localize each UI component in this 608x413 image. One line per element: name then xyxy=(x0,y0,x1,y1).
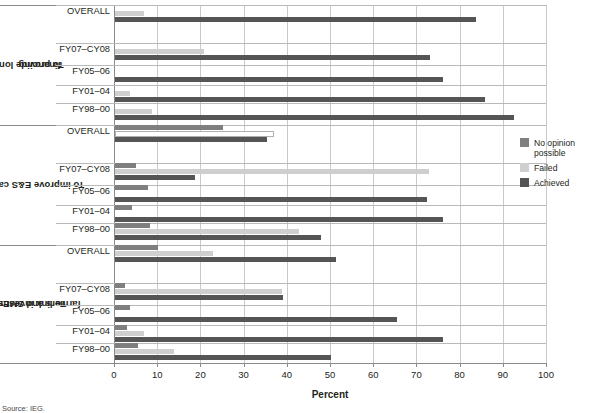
grouped-bar-chart: To provide long-termfinancing To improve… xyxy=(0,0,608,413)
gridline-90 xyxy=(503,5,504,363)
row-label-2-3: FY01–04 xyxy=(56,326,114,337)
legend-label: Failed xyxy=(534,163,608,173)
bar-no-opinion-possible-1-2 xyxy=(115,185,148,190)
x-tick-90 xyxy=(503,363,504,367)
row-separator xyxy=(56,65,546,66)
row-separator xyxy=(56,325,546,326)
legend-item-2: Achieved xyxy=(520,178,608,188)
row-separator xyxy=(56,103,546,104)
bar-achieved-2-2 xyxy=(115,317,397,322)
legend-swatch-icon xyxy=(520,138,529,147)
row-separator xyxy=(56,5,546,6)
bar-failed-0-0 xyxy=(115,11,144,16)
row-separator xyxy=(56,43,546,44)
bar-failed-0-1 xyxy=(115,49,204,54)
bar-achieved-0-3 xyxy=(115,97,485,102)
row-label-2-2: FY05–06 xyxy=(56,306,114,317)
x-tick-30 xyxy=(244,363,245,367)
legend: No opinion possibleFailedAchieved xyxy=(520,138,608,193)
bar-achieved-2-4 xyxy=(115,355,331,360)
bar-failed-0-3 xyxy=(115,91,130,96)
x-tick-label-90: 90 xyxy=(483,369,523,380)
x-tick-10 xyxy=(157,363,158,367)
x-tick-label-0: 0 xyxy=(94,369,134,380)
row-separator xyxy=(56,283,546,284)
group-title-es-capacity: To improve E&S capacity xyxy=(0,125,56,245)
row-label-1-0: OVERALL xyxy=(56,126,114,137)
x-tick-label-60: 60 xyxy=(353,369,393,380)
bar-no-opinion-possible-1-3 xyxy=(115,205,132,210)
x-tick-50 xyxy=(330,363,331,367)
bar-no-opinion-possible-2-0 xyxy=(115,245,158,250)
bar-achieved-1-2 xyxy=(115,197,427,202)
row-label-2-1: FY07–CY08 xyxy=(56,284,114,295)
bar-achieved-2-0 xyxy=(115,257,336,262)
bar-achieved-2-3 xyxy=(115,337,443,342)
x-tick-60 xyxy=(373,363,374,367)
x-tick-40 xyxy=(287,363,288,367)
bar-no-opinion-possible-2-4 xyxy=(115,343,138,348)
row-label-1-3: FY01–04 xyxy=(56,206,114,217)
row-label-0-0: OVERALL xyxy=(56,6,114,17)
x-tick-label-30: 30 xyxy=(224,369,264,380)
bar-failed-2-3 xyxy=(115,331,144,336)
bar-failed-2-4 xyxy=(115,349,174,354)
bar-achieved-2-1 xyxy=(115,295,283,300)
bar-achieved-1-3 xyxy=(115,217,443,222)
bar-achieved-1-4 xyxy=(115,235,321,240)
x-tick-70 xyxy=(416,363,417,367)
group-title-long-term-financing: To provide long-termfinancing xyxy=(0,5,56,125)
row-label-1-2: FY05–06 xyxy=(56,186,114,197)
bar-achieved-0-0 xyxy=(115,17,476,22)
source-note: Source: IEG. xyxy=(2,404,45,413)
gridline-80 xyxy=(460,5,461,363)
bar-achieved-0-4 xyxy=(115,115,514,120)
row-label-0-2: FY05–06 xyxy=(56,66,114,77)
legend-label: No opinion possible xyxy=(534,138,608,158)
x-tick-label-80: 80 xyxy=(440,369,480,380)
bar-achieved-1-0 xyxy=(115,137,267,142)
bar-no-opinion-possible-2-1 xyxy=(115,283,125,288)
bar-no-opinion-possible-2-2 xyxy=(115,305,130,310)
x-tick-label-50: 50 xyxy=(310,369,350,380)
bar-failed-1-1 xyxy=(115,169,429,174)
x-tick-0 xyxy=(114,363,115,367)
bar-failed-1-4 xyxy=(115,229,299,234)
x-tick-label-10: 10 xyxy=(137,369,177,380)
bar-failed-2-0 xyxy=(115,251,213,256)
bar-achieved-1-1 xyxy=(115,175,195,180)
x-tick-label-40: 40 xyxy=(267,369,307,380)
plot-area xyxy=(114,5,546,363)
bar-achieved-0-2 xyxy=(115,77,443,82)
group-title-link-investments: To link investments tofarmers and SMEs xyxy=(0,245,56,363)
bar-no-opinion-possible-2-3 xyxy=(115,325,127,330)
legend-swatch-icon xyxy=(520,178,529,187)
bar-achieved-0-1 xyxy=(115,55,430,60)
legend-label: Achieved xyxy=(534,178,608,188)
row-label-2-4: FY98–00 xyxy=(56,344,114,355)
x-axis-title: Percent xyxy=(114,389,546,400)
row-label-0-3: FY01–04 xyxy=(56,86,114,97)
x-tick-label-70: 70 xyxy=(396,369,436,380)
legend-item-1: Failed xyxy=(520,163,608,173)
row-label-1-1: FY07–CY08 xyxy=(56,164,114,175)
bar-failed-2-1 xyxy=(115,289,282,294)
row-label-2-0: OVERALL xyxy=(56,246,114,257)
legend-swatch-icon xyxy=(520,163,529,172)
x-tick-label-20: 20 xyxy=(180,369,220,380)
bar-failed-0-4 xyxy=(115,109,152,114)
x-tick-label-100: 100 xyxy=(526,369,566,380)
row-label-1-4: FY98–00 xyxy=(56,224,114,235)
x-tick-80 xyxy=(460,363,461,367)
bar-no-opinion-possible-1-4 xyxy=(115,223,150,228)
x-tick-100 xyxy=(546,363,547,367)
row-separator xyxy=(56,85,546,86)
row-label-0-4: FY98–00 xyxy=(56,104,114,115)
bar-no-opinion-possible-1-0 xyxy=(115,125,223,130)
legend-item-0: No opinion possible xyxy=(520,138,608,158)
bar-no-opinion-possible-1-1 xyxy=(115,163,136,168)
row-label-0-1: FY07–CY08 xyxy=(56,44,114,55)
x-tick-20 xyxy=(200,363,201,367)
x-axis: 0102030405060708090100 xyxy=(114,363,546,364)
